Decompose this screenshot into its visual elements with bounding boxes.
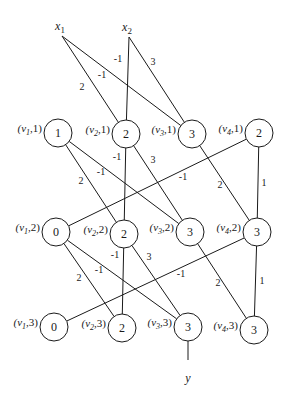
- edge-weight-label: -1: [111, 249, 119, 260]
- input-label-x1: x1: [54, 19, 65, 35]
- edge-weight-label: -1: [98, 69, 106, 80]
- node-v4_2: 3(v4,2): [217, 218, 271, 246]
- node-value: 1: [55, 126, 61, 140]
- edge-x1-v2_1: [62, 36, 118, 122]
- node-v2_2: 2(v2,2): [84, 220, 138, 248]
- edge-weight-label: 3: [151, 154, 156, 165]
- edge-weight-label: 1: [260, 275, 265, 286]
- node-label: (v2,1): [86, 123, 111, 138]
- edge-v4_2-v4_3: [254, 246, 256, 316]
- node-label: (v2,2): [84, 223, 109, 238]
- node-label: (v4,3): [214, 319, 239, 334]
- edge-v1_2-v2_3: [64, 244, 114, 317]
- node-label: (v4,2): [217, 221, 242, 236]
- node-value: 3: [189, 127, 195, 141]
- node-value: 3: [185, 320, 191, 334]
- edge-weight-label: -1: [97, 166, 105, 177]
- edge-v2_2-v2_3: [122, 248, 123, 314]
- node-v1_1: 1(v1,1): [18, 119, 72, 147]
- node-label: (v4,1): [219, 122, 244, 137]
- layered-network-diagram: 2-1-132-1-13-1212-1-13-121 1(v1,1)2(v2,1…: [0, 0, 289, 403]
- edge-weight-label: 2: [79, 175, 84, 186]
- node-value: 3: [251, 323, 257, 337]
- edge-weight-label: 2: [80, 81, 85, 92]
- node-value: 2: [123, 127, 129, 141]
- edge-weight-label: 2: [218, 179, 223, 190]
- node-value: 2: [256, 126, 262, 140]
- edge-weight-label: -1: [95, 264, 103, 275]
- edge-v3_1-v4_2: [200, 146, 250, 221]
- node-label: (v1,3): [14, 316, 39, 331]
- node-v2_1: 2(v2,1): [86, 120, 140, 148]
- edge-weight-label: -1: [177, 268, 185, 279]
- edge-weight-label: 1: [262, 177, 267, 188]
- node-v4_1: 2(v4,1): [219, 119, 273, 147]
- input-label-x2: x2: [121, 20, 132, 36]
- nodes: 1(v1,1)2(v2,1)3(v3,1)2(v4,1)0(v1,2)2(v2,…: [14, 119, 273, 344]
- edge-weight-label: 2: [216, 277, 221, 288]
- node-value: 3: [187, 225, 193, 239]
- node-v1_2: 0(v1,2): [16, 218, 70, 246]
- edge-weight-label: 3: [147, 251, 152, 262]
- edges: [62, 36, 259, 360]
- edge-v4_1-v4_2: [257, 147, 258, 218]
- edge-v1_1-v2_2: [66, 145, 117, 223]
- node-value: 2: [119, 321, 125, 335]
- node-label: (v1,1): [18, 122, 43, 137]
- node-label: (v3,3): [148, 316, 173, 331]
- edge-x2-v3_1: [129, 37, 184, 122]
- node-v4_3: 3(v4,3): [214, 316, 268, 344]
- edge-weights: 2-1-132-1-13-1212-1-13-121: [77, 53, 267, 288]
- node-v2_3: 2(v2,3): [82, 314, 136, 342]
- node-v1_3: 0(v1,3): [14, 313, 68, 341]
- node-value: 2: [121, 227, 127, 241]
- node-value: 3: [254, 225, 260, 239]
- edge-v2_2-v3_3: [132, 246, 180, 316]
- edge-v2_1-v3_2: [134, 146, 183, 221]
- edge-weight-label: -1: [114, 53, 122, 64]
- edge-x2-v2_1: [126, 37, 129, 120]
- node-label: (v3,1): [152, 123, 177, 138]
- node-label: (v2,3): [82, 317, 107, 332]
- edge-weight-label: 3: [151, 56, 156, 67]
- node-value: 0: [53, 225, 59, 239]
- node-label: (v1,2): [16, 221, 41, 236]
- edge-v3_2-v4_3: [198, 244, 247, 319]
- node-label: (v3,2): [150, 221, 175, 236]
- node-value: 0: [51, 320, 57, 334]
- edge-weight-label: 2: [77, 272, 82, 283]
- output-label-y: y: [184, 371, 191, 385]
- edge-weight-label: -1: [179, 171, 187, 182]
- edge-weight-label: -1: [113, 151, 121, 162]
